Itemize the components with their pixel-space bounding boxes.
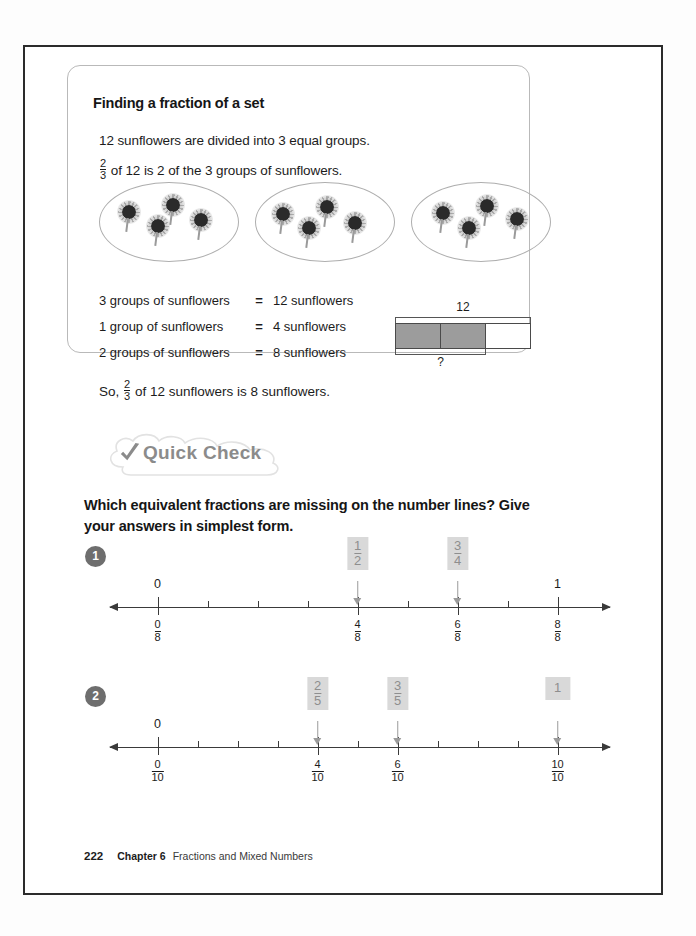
- answer-arrow-icon: [317, 721, 319, 739]
- tick-minor: [518, 741, 519, 748]
- directions-text: Which equivalent fractions are missing o…: [84, 495, 554, 538]
- number-line-label-below: 0 10: [151, 759, 163, 783]
- quick-check-banner: Quick Check: [105, 433, 290, 478]
- fraction-two-thirds: 2 3: [100, 158, 106, 182]
- arrow-right-icon: [602, 743, 611, 751]
- equation-left: 1 group of sunflowers: [99, 319, 251, 334]
- tick-major: [158, 597, 159, 615]
- answer-arrow-icon: [357, 581, 359, 599]
- sunflower-icon: [314, 195, 340, 229]
- tick-minor: [308, 601, 309, 608]
- learn-line-2-text: of 12 is 2 of the 3 groups of sunflowers…: [111, 163, 343, 178]
- number-line-label-below: 0 8: [154, 619, 160, 643]
- footer-chapter-title: Fractions and Mixed Numbers: [173, 850, 313, 862]
- equation-row-3: 2 groups of sunflowers=8 sunflowers: [99, 345, 346, 360]
- tick-minor: [478, 741, 479, 748]
- number-line-label-below: 4 8: [354, 619, 360, 643]
- equation-left: 2 groups of sunflowers: [99, 345, 251, 360]
- sunflower-group-3: [411, 182, 551, 262]
- equals-sign: =: [251, 293, 267, 308]
- sunflower-group-2: [255, 182, 395, 262]
- tick-minor: [508, 601, 509, 608]
- number-line-label-above: 1: [554, 577, 561, 591]
- bar-model-total-label: 12: [393, 300, 533, 314]
- equals-sign: =: [251, 319, 267, 334]
- answer-box[interactable]: 1 2: [347, 537, 368, 570]
- tick-minor: [438, 741, 439, 748]
- tick-minor: [408, 601, 409, 608]
- bar-model-cell-shaded: [395, 323, 440, 349]
- answer-box[interactable]: 3 5: [387, 677, 408, 710]
- number-line-2: 0 0 10 4 10 6 10 10 10 2 5 3 5 1: [110, 685, 610, 795]
- tick-major: [558, 597, 559, 615]
- tick-minor: [278, 741, 279, 748]
- bar-model-unknown-label: ?: [395, 355, 486, 369]
- learn-line-2: 2 3 of 12 is 2 of the 3 groups of sunflo…: [99, 158, 342, 182]
- equation-left: 3 groups of sunflowers: [99, 293, 251, 308]
- number-line-axis: [110, 607, 610, 608]
- sunflower-icon: [270, 202, 296, 236]
- conclusion-prefix: So,: [99, 384, 119, 399]
- answer-box[interactable]: 3 4: [447, 537, 468, 570]
- number-line-1: 0 1 0 8 4 8 6 8 8 8 1 2 3 4: [110, 545, 610, 655]
- arrow-right-icon: [602, 603, 611, 611]
- arrow-left-icon: [109, 743, 118, 751]
- answer-arrow-icon: [397, 721, 399, 739]
- equals-sign: =: [251, 345, 267, 360]
- answer-arrow-icon: [557, 721, 559, 739]
- fraction-two-thirds: 2 3: [124, 379, 130, 403]
- answer-arrow-icon: [457, 581, 459, 599]
- sunflower-icon: [474, 194, 500, 228]
- answer-box[interactable]: 2 5: [307, 677, 328, 710]
- number-line-label-below: 6 10: [391, 759, 403, 783]
- tick-minor: [358, 741, 359, 748]
- number-line-label-above: 0: [154, 577, 161, 591]
- bar-model: 12 ?: [393, 300, 533, 372]
- tick-minor: [198, 741, 199, 748]
- equation-right: 8 sunflowers: [273, 345, 346, 360]
- sunflower-icon: [116, 200, 142, 234]
- conclusion-text: of 12 sunflowers is 8 sunflowers.: [135, 384, 330, 399]
- tick-minor: [238, 741, 239, 748]
- tick-minor: [208, 601, 209, 608]
- sunflower-icon: [342, 211, 368, 245]
- number-line-label-below: 8 8: [554, 619, 560, 643]
- bar-model-bar: [395, 323, 531, 349]
- sunflower-icon: [430, 201, 456, 235]
- sunflower-icon: [504, 207, 530, 241]
- arrow-left-icon: [109, 603, 118, 611]
- answer-box[interactable]: 1: [545, 677, 570, 700]
- number-line-label-below: 6 8: [454, 619, 460, 643]
- equation-row-2: 1 group of sunflowers=4 sunflowers: [99, 319, 346, 334]
- exercise-number-1: 1: [85, 546, 106, 567]
- bar-model-cell-shaded: [440, 323, 485, 349]
- learn-line-1: 12 sunflowers are divided into 3 equal g…: [99, 133, 370, 148]
- check-mark-icon: [119, 442, 141, 464]
- tick-minor: [258, 601, 259, 608]
- sunflower-icon: [188, 208, 214, 242]
- footer-chapter: Chapter 6: [117, 850, 165, 862]
- equation-right: 4 sunflowers: [273, 319, 346, 334]
- footer-page-number: 222: [84, 850, 103, 862]
- sunflower-icon: [160, 193, 186, 227]
- number-line-label-below: 4 10: [311, 759, 323, 783]
- tick-major: [158, 737, 159, 755]
- conclusion-line: So, 2 3 of 12 sunflowers is 8 sunflowers…: [99, 379, 330, 403]
- number-line-label-above: 0: [154, 717, 161, 731]
- bar-model-cell-empty: [485, 323, 531, 349]
- page-footer: 222Chapter 6Fractions and Mixed Numbers: [84, 850, 313, 862]
- number-line-axis: [110, 747, 610, 748]
- quick-check-label: Quick Check: [143, 442, 261, 464]
- exercise-number-2: 2: [85, 686, 106, 707]
- sunflower-group-1: [99, 182, 239, 262]
- equation-right: 12 sunflowers: [273, 293, 353, 308]
- number-line-label-below: 10 10: [551, 759, 563, 783]
- learn-box-title: Finding a fraction of a set: [88, 95, 271, 111]
- equation-row-1: 3 groups of sunflowers=12 sunflowers: [99, 293, 353, 308]
